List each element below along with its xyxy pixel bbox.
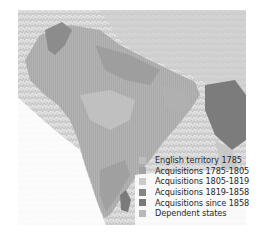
swatch-icon bbox=[139, 210, 146, 217]
legend-item-dependent-states: Dependent states bbox=[139, 208, 249, 219]
legend-label: Acquisitions 1819-1858 bbox=[155, 187, 249, 197]
legend-item-english-territory-1785: English territory 1785 bbox=[139, 155, 249, 166]
legend-item-acquisitions-1785-1805: Acquisitions 1785-1805 bbox=[139, 166, 249, 177]
swatch-icon bbox=[139, 178, 146, 185]
legend-label: Acquisitions 1805-1819 bbox=[155, 176, 249, 186]
swatch-icon bbox=[139, 157, 146, 164]
legend-item-acquisitions-1819-1858: Acquisitions 1819-1858 bbox=[139, 187, 249, 198]
swatch-icon bbox=[139, 167, 146, 174]
legend-label: English territory 1785 bbox=[155, 155, 242, 165]
legend-label: Dependent states bbox=[155, 208, 226, 218]
map-legend: English territory 1785 Acquisitions 1785… bbox=[139, 155, 249, 219]
legend-item-acquisitions-since-1858: Acquisitions since 1858 bbox=[139, 197, 249, 208]
swatch-icon bbox=[139, 189, 146, 196]
legend-item-acquisitions-1805-1819: Acquisitions 1805-1819 bbox=[139, 176, 249, 187]
legend-label: Acquisitions 1785-1805 bbox=[155, 166, 249, 176]
legend-label: Acquisitions since 1858 bbox=[155, 198, 249, 208]
swatch-icon bbox=[139, 199, 146, 206]
